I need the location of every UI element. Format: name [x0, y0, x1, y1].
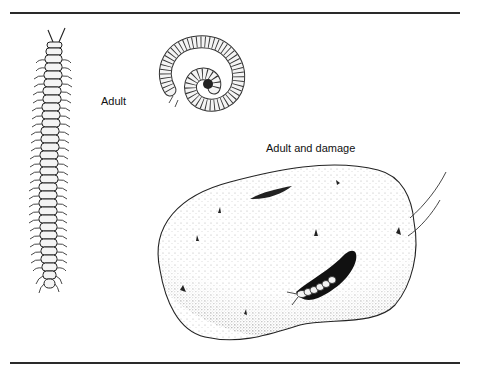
- label-adult: Adult: [101, 95, 126, 107]
- figure-illustrations: [0, 0, 477, 371]
- label-adult-and-damage: Adult and damage: [266, 142, 355, 154]
- bottom-rule: [10, 362, 460, 364]
- millipede-coiled-icon: [165, 42, 238, 107]
- potato-icon: [158, 165, 446, 340]
- millipede-extended-icon: [29, 28, 72, 293]
